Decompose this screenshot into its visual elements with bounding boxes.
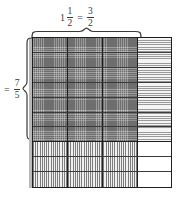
grid-row-line-5 [33,112,171,113]
mixed-numerator: 1 [67,7,74,18]
mixed-whole-number: 1 [60,13,65,23]
improper-numerator: 3 [87,7,94,18]
equals-sign-top: = [77,13,83,23]
equals-sign-left: = [4,85,10,95]
grid-row-line-6 [33,126,171,127]
diagram-canvas: 1 1 2 = 3 2 = 7 5 [0,0,188,208]
height-denominator: 5 [14,90,21,100]
grid-row-line-4 [33,97,171,98]
grid-row-line-8 [33,156,171,157]
improper-fraction: 3 2 [87,7,94,28]
height-numerator: 7 [14,79,21,90]
mixed-fraction: 1 2 [67,7,74,28]
top-width-label: 1 1 2 = 3 2 [60,7,95,28]
height-fraction: 7 5 [14,79,21,100]
grid-row-line-9 [33,171,171,172]
area-model-grid [32,37,172,188]
grid-row-line-7 [33,141,171,142]
grid-row-line-3 [33,82,171,83]
grid-row-line-1 [33,52,171,53]
grid-row-line-2 [33,67,171,68]
left-height-label: = 7 5 [1,79,21,100]
region-vertical-shaded [33,142,138,187]
region-unshaded [138,142,171,187]
